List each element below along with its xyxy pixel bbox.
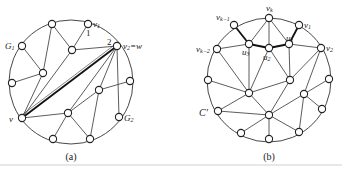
edges-b [208,18,329,139]
label-vk: vk [266,3,273,13]
node [86,135,93,142]
caption-a: (a) [65,151,76,163]
bold-edge-v-w [22,46,117,118]
node [237,129,244,136]
label-u1: u1 [286,33,294,43]
node [265,111,272,118]
label-v2-w: v2=w [123,41,142,51]
label-v: v [9,114,13,124]
label-number-2: 2 [107,37,112,47]
node-g2 [115,113,122,120]
figure-b: vk v1 vk−1 vk−2 v2 u3 u2 u1 C′ (b) [196,3,333,163]
node-v1 [295,21,302,28]
label-v1: v1 [93,19,100,29]
node [39,69,46,76]
label-v1: v1 [304,20,311,30]
node [245,89,252,96]
node-v2 [317,44,324,51]
label-v2: v2 [326,43,333,53]
label-u3: u3 [242,47,250,57]
figure-canvas: v1 1 2 v2=w G1 G2 v (a) [0,0,342,173]
node [95,86,102,93]
node-g1 [18,42,25,49]
label-u2: u2 [263,52,271,62]
label-vk-2: vk−2 [196,44,210,54]
node-vk-1 [230,21,237,28]
node [49,135,56,142]
node-vk [265,14,272,21]
node [126,77,133,84]
node-vk-2 [213,45,220,52]
node [68,46,75,53]
node-v [18,114,25,121]
node [295,128,302,135]
label-number-1: 1 [86,28,91,38]
label-vk-1: vk−1 [216,12,230,22]
node-u2 [265,44,272,51]
label-c-prime: C′ [199,107,209,118]
node-c-prime [214,107,221,114]
node-v1 [84,20,91,27]
node [300,90,307,97]
edges-a [12,24,130,139]
node [286,76,293,83]
label-g2: G2 [124,113,134,123]
node [325,75,332,82]
node [64,109,71,116]
node-v2-w [113,42,120,49]
figure-a: v1 1 2 v2=w G1 G2 v (a) [5,19,142,163]
labels-a: v1 1 2 v2=w G1 G2 v [5,19,142,124]
node [318,105,325,112]
node [48,20,55,27]
outer-cycle-a [9,20,133,144]
bottom-divider [0,164,342,166]
node [265,135,272,142]
label-g1: G1 [5,41,15,51]
caption-b: (b) [263,151,275,163]
node [8,79,15,86]
node [204,76,211,83]
